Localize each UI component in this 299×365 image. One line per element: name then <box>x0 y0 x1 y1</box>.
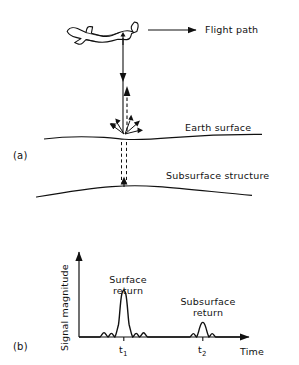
panel-a-label: (a) <box>13 150 28 161</box>
x-axis-label: Time <box>240 346 264 357</box>
y-axis-label: Signal magnitude <box>59 264 70 351</box>
aircraft-icon <box>67 22 138 44</box>
earth-surface-line <box>44 134 262 139</box>
earth-surface-label: Earth surface <box>185 122 251 133</box>
subsurface-return-annotation: Subsurface return <box>160 296 256 318</box>
surface-return-line2: return <box>88 285 168 296</box>
x-tick-label-t1: t1 <box>119 344 128 358</box>
panel-b-label: (b) <box>13 341 28 352</box>
surface-echo-ray <box>124 86 131 131</box>
subsurface-return-line2: return <box>160 307 256 318</box>
x-tick-label-t2: t2 <box>198 344 207 358</box>
figure-radar-sounding: Flight path Earth surface Subsurface str… <box>0 0 299 365</box>
subsurface-structure-line <box>36 186 252 197</box>
flight-path-label: Flight path <box>205 24 258 35</box>
subsurface-echo-ray <box>121 142 128 187</box>
subsurface-return-line1: Subsurface <box>160 296 256 307</box>
transmit-ray <box>120 38 127 133</box>
subsurface-structure-label: Subsurface structure <box>166 170 269 181</box>
surface-return-line1: Surface <box>88 274 168 285</box>
surface-return-annotation: Surface return <box>88 274 168 296</box>
